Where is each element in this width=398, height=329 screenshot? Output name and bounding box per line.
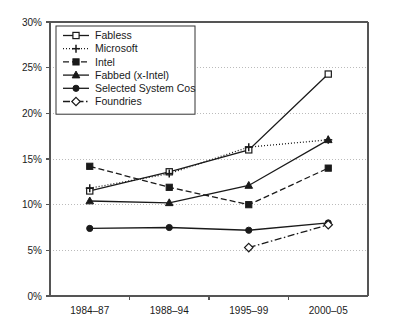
- data-point-marker: [245, 181, 253, 188]
- legend: FablessMicrosoftIntelFabbed (x-Intel)Sel…: [56, 26, 195, 114]
- chart-container: 0%5%10%15%20%25%30%1984–871988–941995–99…: [0, 0, 398, 329]
- data-point-marker: [87, 225, 93, 231]
- x-axis-tick-label: 1988–94: [150, 305, 189, 316]
- data-point-marker: [87, 163, 93, 169]
- series-fabbed-x-intel: [86, 136, 332, 206]
- legend-item-label: Microsoft: [95, 42, 138, 54]
- x-axis-tick-label: 1984–87: [70, 305, 109, 316]
- data-point-marker: [73, 85, 79, 91]
- y-axis-tick-label: 0%: [28, 291, 43, 302]
- data-point-marker: [73, 59, 79, 65]
- data-point-marker: [166, 224, 172, 230]
- data-point-marker: [86, 197, 94, 204]
- y-axis-tick-label: 30%: [22, 17, 42, 28]
- y-axis-tick-label: 10%: [22, 199, 42, 210]
- legend-item-label: Fabbed (x-Intel): [95, 69, 169, 81]
- y-axis-ticks: 0%5%10%15%20%25%30%: [22, 17, 50, 302]
- data-point-marker: [325, 71, 331, 77]
- data-point-marker: [246, 227, 252, 233]
- legend-item-label: Selected System Cos: [95, 82, 195, 94]
- data-point-marker: [73, 32, 79, 38]
- legend-item-label: Fabless: [95, 29, 132, 41]
- y-axis-tick-label: 5%: [28, 245, 43, 256]
- series-intel: [87, 163, 332, 208]
- data-point-marker: [246, 202, 252, 208]
- line-chart: 0%5%10%15%20%25%30%1984–871988–941995–99…: [0, 0, 398, 329]
- y-axis-tick-label: 15%: [22, 154, 42, 165]
- data-point-marker: [166, 184, 172, 190]
- y-axis-tick-label: 25%: [22, 62, 42, 73]
- series-selected-system-cos: [87, 220, 332, 234]
- legend-item-label: Intel: [95, 56, 115, 68]
- series-microsoft: [86, 136, 333, 192]
- x-axis-tick-label: 1995–99: [229, 305, 268, 316]
- data-point-marker: [325, 165, 331, 171]
- x-axis-tick-label: 2000–05: [309, 305, 348, 316]
- y-axis-tick-label: 20%: [22, 108, 42, 119]
- x-axis-ticks: 1984–871988–941995–992000–05: [70, 296, 348, 316]
- legend-item-label: Foundries: [95, 95, 142, 107]
- series-foundries: [245, 221, 333, 252]
